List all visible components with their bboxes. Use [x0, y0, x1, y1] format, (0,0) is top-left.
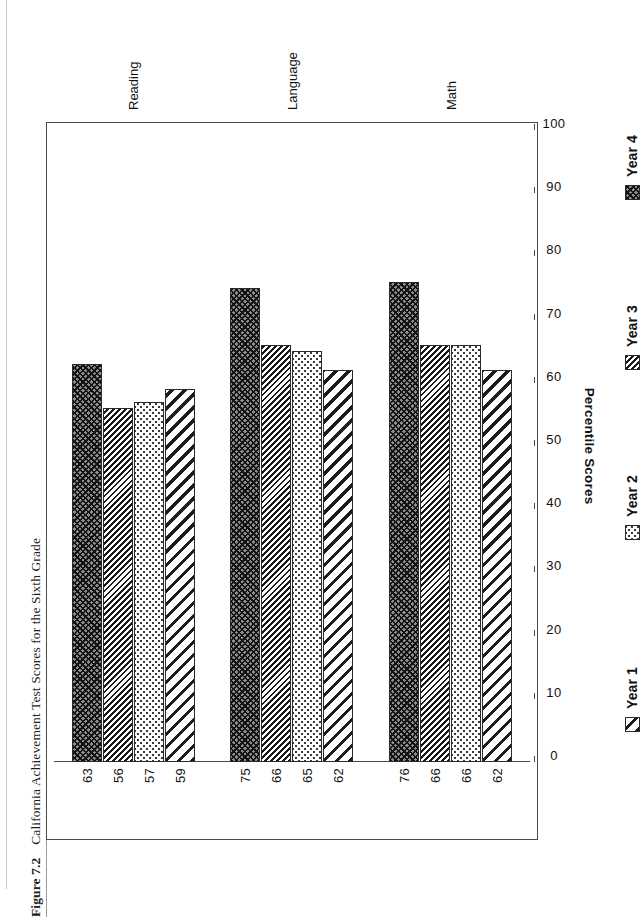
legend-label: Year 1: [624, 667, 640, 709]
category-label-math: Math: [443, 81, 458, 110]
plot-area: 635657597566656276666662: [54, 130, 530, 762]
axis-tick-label: 20: [546, 621, 561, 636]
legend-swatch-icon: [625, 525, 640, 540]
bar-math-year-4: 76: [389, 282, 419, 762]
bar-value-label: 66: [428, 768, 443, 783]
legend-swatch-icon: [625, 185, 640, 200]
axis-tick: [534, 693, 535, 699]
chart-legend: Year 1Year 2Year 3Year 4: [566, 122, 596, 840]
axis-tick: [534, 566, 535, 572]
bar-group: 76666662: [371, 130, 530, 762]
figure-container: 0102030405060708090100 Percentile Scores…: [46, 10, 540, 840]
bar-value-label: 57: [141, 768, 156, 783]
axis-tick-label: 90: [546, 179, 561, 194]
axis-tick: [534, 124, 535, 130]
bar-value-label: 76: [397, 768, 412, 783]
legend-item-year-4[interactable]: Year 4: [624, 135, 640, 200]
figure-number: Figure 7.2: [28, 858, 44, 917]
legend-label: Year 3: [624, 305, 640, 347]
legend-item-year-3[interactable]: Year 3: [624, 305, 640, 370]
axis-tick: [534, 314, 535, 320]
bar-value-label: 59: [172, 768, 187, 783]
bar-math-year-2: 66: [451, 345, 481, 762]
bar-language-year-4: 75: [230, 288, 260, 762]
bar-value-label: 63: [79, 768, 94, 783]
axis-tick-label: 100: [543, 116, 566, 131]
axis-tick-label: 80: [546, 242, 561, 257]
axis-tick-label: 10: [546, 684, 561, 699]
axis-tick: [534, 377, 535, 383]
bar-reading-year-4: 63: [72, 364, 102, 762]
axis-tick: [534, 503, 535, 509]
axis-tick: [534, 250, 535, 256]
bar-value-label: 75: [238, 768, 253, 783]
bar-language-year-2: 65: [292, 351, 322, 762]
legend-item-year-2[interactable]: Year 2: [624, 475, 640, 540]
bar-reading-year-1: 59: [165, 389, 195, 762]
bar-language-year-1: 62: [323, 370, 353, 762]
bar-value-label: 62: [331, 768, 346, 783]
legend-swatch-icon: [625, 717, 640, 732]
bar-language-year-3: 66: [261, 345, 291, 762]
figure-title: California Achievement Test Scores for t…: [28, 538, 44, 845]
bar-group: 75666562: [213, 130, 372, 762]
axis-tick-label: 40: [546, 495, 561, 510]
figure-caption: Figure 7.2 California Achievement Test S…: [13, 197, 47, 917]
bar-value-label: 62: [490, 768, 505, 783]
legend-swatch-icon: [625, 355, 640, 370]
bar-math-year-3: 66: [420, 345, 450, 762]
axis-tick: [534, 756, 535, 762]
bar-reading-year-3: 56: [103, 408, 133, 762]
axis-tick-label: 50: [546, 432, 561, 447]
axis-tick-label: 0: [550, 748, 558, 763]
bar-reading-year-2: 57: [134, 402, 164, 762]
bar-value-label: 66: [269, 768, 284, 783]
page-gutter: [6, 0, 7, 889]
bar-math-year-1: 62: [482, 370, 512, 762]
axis-tick: [534, 630, 535, 636]
legend-item-year-1[interactable]: Year 1: [624, 667, 640, 732]
bar-value-label: 65: [300, 768, 315, 783]
category-label-language: Language: [285, 52, 300, 110]
legend-label: Year 4: [624, 135, 640, 177]
axis-tick-label: 70: [546, 305, 561, 320]
bar-value-label: 66: [459, 768, 474, 783]
bar-group: 63565759: [54, 130, 213, 762]
legend-label: Year 2: [624, 475, 640, 517]
category-label-reading: Reading: [126, 62, 141, 110]
axis-tick-label: 60: [546, 368, 561, 383]
bar-chart: 0102030405060708090100 Percentile Scores…: [46, 10, 540, 840]
axis-tick: [534, 440, 535, 446]
bar-value-label: 56: [110, 768, 125, 783]
axis-tick: [534, 187, 535, 193]
axis-tick-label: 30: [546, 558, 561, 573]
